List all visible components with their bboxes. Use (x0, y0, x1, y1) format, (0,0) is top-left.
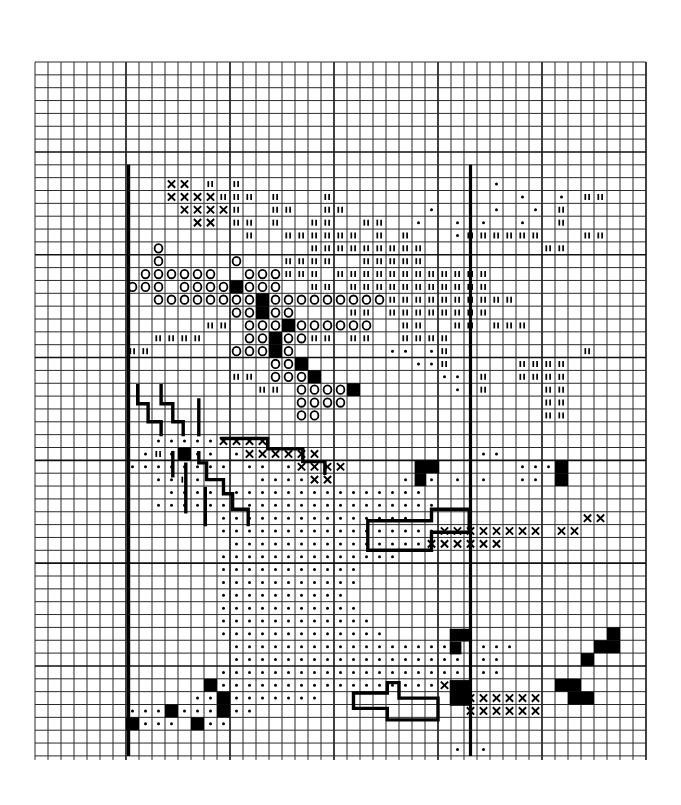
tick-symbol-icon (234, 207, 238, 213)
dot-symbol-icon (248, 645, 251, 648)
dot-symbol-icon (430, 362, 433, 365)
dot-symbol-icon (235, 491, 238, 494)
cross-symbol-icon (454, 540, 461, 547)
circle-symbol-icon (324, 295, 332, 303)
dot-symbol-icon (248, 530, 251, 533)
dot-symbol-icon (261, 684, 264, 687)
dot-symbol-icon (261, 517, 264, 520)
cross-symbol-icon (168, 180, 175, 187)
dot-symbol-icon (274, 581, 277, 584)
tick-symbol-icon (546, 400, 550, 406)
cross-symbol-icon (181, 180, 188, 187)
tick-symbol-icon (338, 245, 342, 251)
circle-symbol-icon (337, 295, 345, 303)
circle-symbol-icon (311, 411, 319, 419)
cross-symbol-icon (506, 527, 513, 534)
dot-symbol-icon (300, 517, 303, 520)
dot-symbol-icon (235, 709, 238, 712)
dot-symbol-icon (261, 632, 264, 635)
cross-symbol-icon (519, 694, 526, 701)
tick-symbol-icon (598, 232, 602, 238)
dot-symbol-icon (417, 671, 420, 674)
dot-symbol-icon (157, 722, 160, 725)
cross-symbol-icon (194, 219, 201, 226)
tick-symbol-icon (273, 207, 277, 213)
dot-symbol-icon (404, 684, 407, 687)
cross-symbol-icon (311, 463, 318, 470)
dot-symbol-icon (495, 452, 498, 455)
dot-symbol-icon (300, 478, 303, 481)
backstitch-lines (138, 386, 470, 720)
cross-symbol-icon (506, 707, 513, 714)
dot-symbol-icon (222, 722, 225, 725)
dot-symbol-icon (404, 350, 407, 353)
tick-symbol-icon (156, 451, 160, 457)
filled-square-icon (308, 370, 321, 383)
filled-square-icon (568, 679, 581, 692)
tick-symbol-icon (481, 374, 485, 380)
dot-symbol-icon (248, 697, 251, 700)
dot-symbol-icon (326, 568, 329, 571)
tick-symbol-icon (559, 220, 563, 226)
tick-symbol-icon (585, 232, 589, 238)
tick-symbol-icon (442, 284, 446, 290)
dot-symbol-icon (365, 671, 368, 674)
cross-symbol-icon (584, 515, 591, 522)
filled-square-icon (256, 306, 269, 319)
dot-symbol-icon (287, 632, 290, 635)
tick-symbol-icon (559, 361, 563, 367)
dot-symbol-icon (248, 542, 251, 545)
dot-symbol-icon (534, 478, 537, 481)
circle-symbol-icon (272, 270, 280, 278)
circle-symbol-icon (194, 283, 202, 291)
dot-symbol-icon (248, 684, 251, 687)
circle-symbol-icon (181, 270, 189, 278)
dot-symbol-icon (235, 530, 238, 533)
tick-symbol-icon (130, 348, 134, 354)
tick-symbol-icon (338, 232, 342, 238)
dot-symbol-icon (430, 478, 433, 481)
circle-symbol-icon (285, 295, 293, 303)
filled-square-icon (607, 640, 620, 653)
tick-symbol-icon (156, 335, 160, 341)
fill-right-2 (450, 642, 462, 655)
dot-symbol-icon (391, 555, 394, 558)
dot-symbol-icon (157, 504, 160, 507)
circle-symbol-icon (181, 295, 189, 303)
cross-stitch-chart (0, 0, 681, 805)
dot-symbol-icon (261, 581, 264, 584)
tick-symbol-icon (286, 232, 290, 238)
cross-symbol-icon (259, 450, 266, 457)
tick-symbol-icon (247, 232, 251, 238)
dot-symbol-icon (287, 491, 290, 494)
circle-symbol-icon (298, 373, 306, 381)
filled-square-icon (204, 679, 217, 692)
tick-symbol-icon (234, 181, 238, 187)
tick-symbol-icon (442, 335, 446, 341)
dot-symbol-icon (170, 722, 173, 725)
dot-symbol-icon (430, 504, 433, 507)
dot-symbol-icon (378, 645, 381, 648)
tick-symbol-icon (377, 232, 381, 238)
tick-symbol-icon (351, 335, 355, 341)
circle-symbol-icon (350, 295, 358, 303)
circle-symbol-icon (233, 347, 241, 355)
dot-symbol-icon (456, 671, 459, 674)
tick-symbol-icon (338, 271, 342, 277)
dot-symbol-icon (261, 491, 264, 494)
dot-symbol-icon (248, 607, 251, 610)
tick-symbol-icon (325, 335, 329, 341)
dot-symbol-icon (352, 555, 355, 558)
dot-symbol-icon (235, 697, 238, 700)
dot-symbol-icon (222, 581, 225, 584)
dot-symbol-icon (495, 183, 498, 186)
dot-symbol-icon (339, 645, 342, 648)
dot-symbol-icon (391, 671, 394, 674)
dot-symbol-icon (404, 530, 407, 533)
tick-symbol-icon (455, 322, 459, 328)
dot-symbol-icon (352, 607, 355, 610)
dot-symbol-icon (274, 504, 277, 507)
dot-symbol-icon (248, 594, 251, 597)
cross-symbol-icon (207, 219, 214, 226)
dot-symbol-icon (235, 517, 238, 520)
